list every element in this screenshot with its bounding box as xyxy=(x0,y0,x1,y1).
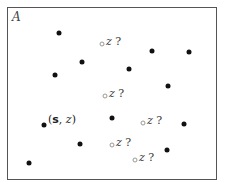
observed-point-icon xyxy=(187,50,192,55)
observed-point-icon xyxy=(110,116,115,121)
separator: , xyxy=(59,113,66,126)
query-point-icon xyxy=(103,94,108,99)
paren-close: ) xyxy=(72,113,76,126)
observed-point-icon xyxy=(57,31,62,36)
observed-point-icon xyxy=(127,67,132,72)
query-label: z ? xyxy=(147,114,162,127)
observed-point-icon xyxy=(27,161,32,166)
query-point-icon xyxy=(141,121,146,126)
query-label: z ? xyxy=(116,136,131,149)
observed-point-icon xyxy=(80,60,85,65)
query-label: z ? xyxy=(139,151,154,164)
query-point-icon xyxy=(100,42,105,47)
observed-point-icon xyxy=(165,148,170,153)
query-label: z ? xyxy=(109,87,124,100)
observed-point-icon xyxy=(150,49,155,54)
region-label: A xyxy=(12,10,21,24)
observed-point-icon xyxy=(42,123,47,128)
query-point-icon xyxy=(110,143,115,148)
known-point-label: (s, z) xyxy=(48,113,76,126)
observed-point-icon xyxy=(166,84,171,89)
observed-point-icon xyxy=(182,122,187,127)
query-label: z ? xyxy=(106,35,121,48)
observed-point-icon xyxy=(78,142,83,147)
query-point-icon xyxy=(133,158,138,163)
observed-point-icon xyxy=(53,73,58,78)
